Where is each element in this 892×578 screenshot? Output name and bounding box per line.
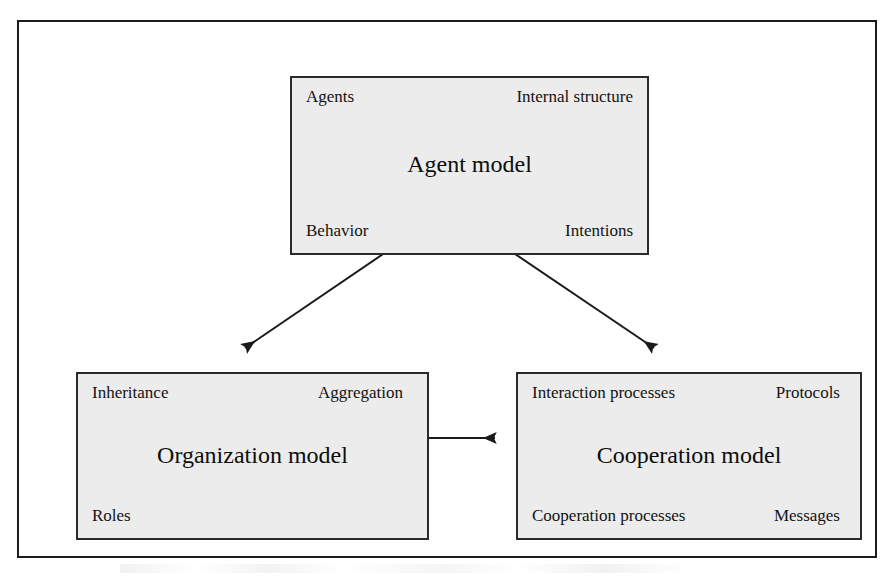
cooperation-model-label-messages: Messages: [774, 507, 840, 526]
agent-model-label-agents: Agents: [306, 88, 354, 107]
agent-model-top-row: Agents Internal structure: [306, 88, 633, 107]
cooperation-model-label-interaction-processes: Interaction processes: [532, 384, 675, 403]
organization-model-label-aggregation: Aggregation: [318, 384, 403, 403]
agent-model-title: Agent model: [407, 151, 532, 177]
organization-model-title-row: Organization model: [92, 403, 413, 508]
diagram-page: Agents Internal structure Agent model Be…: [0, 0, 892, 578]
organization-model-title: Organization model: [157, 442, 348, 468]
cooperation-model-label-protocols: Protocols: [776, 384, 840, 403]
box-cooperation-model-content: Interaction processes Protocols Cooperat…: [518, 374, 860, 538]
box-organization-model-content: Inheritance Aggregation Organization mod…: [78, 374, 427, 538]
box-agent-model[interactable]: Agents Internal structure Agent model Be…: [290, 76, 649, 255]
box-cooperation-model[interactable]: Interaction processes Protocols Cooperat…: [516, 372, 862, 540]
organization-model-bottom-row: Roles: [92, 507, 413, 526]
cooperation-model-bottom-row: Cooperation processes Messages: [532, 507, 846, 526]
organization-model-top-row: Inheritance Aggregation: [92, 384, 413, 403]
scan-artifact: [120, 564, 740, 573]
organization-model-label-inheritance: Inheritance: [92, 384, 168, 403]
cooperation-model-title-row: Cooperation model: [532, 403, 846, 508]
agent-model-bottom-row: Behavior Intentions: [306, 222, 633, 241]
cooperation-model-title: Cooperation model: [597, 442, 782, 468]
box-agent-model-content: Agents Internal structure Agent model Be…: [292, 78, 647, 253]
agent-model-label-behavior: Behavior: [306, 222, 368, 241]
agent-model-label-intentions: Intentions: [565, 222, 633, 241]
organization-model-label-roles: Roles: [92, 507, 131, 526]
cooperation-model-top-row: Interaction processes Protocols: [532, 384, 846, 403]
agent-model-label-internal-structure: Internal structure: [516, 88, 633, 107]
cooperation-model-label-cooperation-processes: Cooperation processes: [532, 507, 685, 526]
agent-model-title-row: Agent model: [306, 107, 633, 223]
box-organization-model[interactable]: Inheritance Aggregation Organization mod…: [76, 372, 429, 540]
diagram-frame: Agents Internal structure Agent model Be…: [17, 20, 877, 558]
